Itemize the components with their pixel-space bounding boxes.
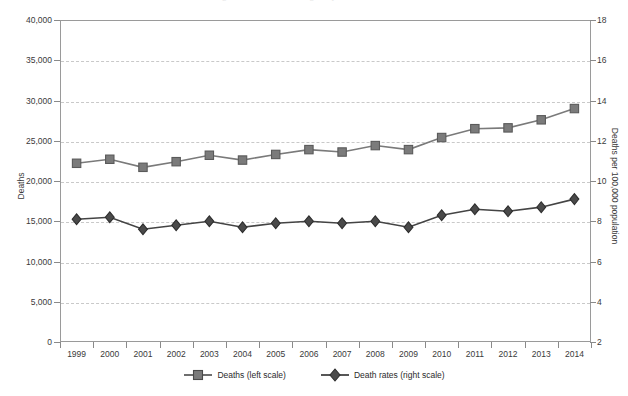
square-marker — [205, 151, 213, 159]
diamond-marker — [320, 368, 350, 382]
series-deaths — [72, 104, 578, 171]
legend-item[interactable]: Deaths (left scale) — [183, 368, 286, 382]
square-marker — [404, 145, 412, 153]
square-marker — [272, 150, 280, 158]
diamond-marker — [537, 202, 546, 213]
square-marker — [72, 159, 80, 167]
diamond-marker — [504, 206, 513, 217]
series-line — [77, 199, 575, 229]
square-marker — [305, 145, 313, 153]
square-marker — [371, 141, 379, 149]
series-layer — [0, 0, 628, 396]
diamond-marker — [470, 204, 479, 215]
square-marker — [106, 155, 114, 163]
diamond-marker — [205, 216, 214, 227]
diamond-marker — [570, 194, 579, 205]
diamond-marker — [105, 212, 114, 223]
square-marker — [504, 124, 512, 132]
diamond-marker — [371, 216, 380, 227]
legend-item[interactable]: Death rates (right scale) — [320, 368, 445, 382]
diamond-marker — [238, 222, 247, 233]
legend-label: Deaths (left scale) — [217, 370, 286, 380]
diamond-marker — [404, 222, 413, 233]
series-death-rates — [72, 194, 579, 235]
diamond-marker — [72, 214, 81, 225]
square-marker — [570, 104, 578, 112]
series-line — [77, 109, 575, 168]
diamond-marker — [172, 220, 181, 231]
square-marker — [139, 163, 147, 171]
diamond-marker — [139, 224, 148, 235]
diamond-marker — [271, 218, 280, 229]
square-marker — [437, 133, 445, 141]
square-marker — [537, 116, 545, 124]
square-marker — [183, 368, 213, 382]
chart-figure: Figure 1. Number and age-adjusted rate o… — [0, 0, 628, 396]
diamond-marker — [304, 216, 313, 227]
square-marker — [172, 157, 180, 165]
square-marker — [238, 156, 246, 164]
chart-legend: Deaths (left scale)Death rates (right sc… — [0, 368, 628, 382]
diamond-marker — [338, 218, 347, 229]
diamond-marker — [437, 210, 446, 221]
square-marker — [338, 148, 346, 156]
legend-label: Death rates (right scale) — [354, 370, 445, 380]
square-marker — [471, 124, 479, 132]
